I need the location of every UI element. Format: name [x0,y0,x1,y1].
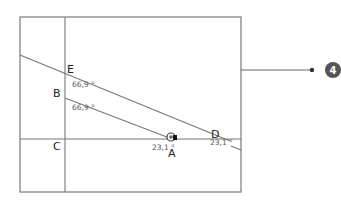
callout-badge-4[interactable]: 4 [325,62,341,78]
sloped-line-ed [20,55,230,141]
angle-label-e: 66,9 ° [72,80,95,89]
geometry-diagram: E B C A D 66,9 ° 66,9 ° 23,1 ° 23,1 ° 4 [0,0,341,204]
angle-label-a: 23,1 ° [152,143,175,152]
angle-label-d: 23,1 ° [210,138,233,147]
callout-leader-dot [310,68,314,72]
point-label-e: E [67,63,74,76]
angle-label-b: 66,9 ° [72,103,95,112]
point-label-c: C [53,140,61,153]
point-label-b: B [53,87,61,100]
diagram-frame [20,17,241,192]
callout-badge-number: 4 [330,65,337,76]
point-a-marker[interactable] [167,133,177,141]
